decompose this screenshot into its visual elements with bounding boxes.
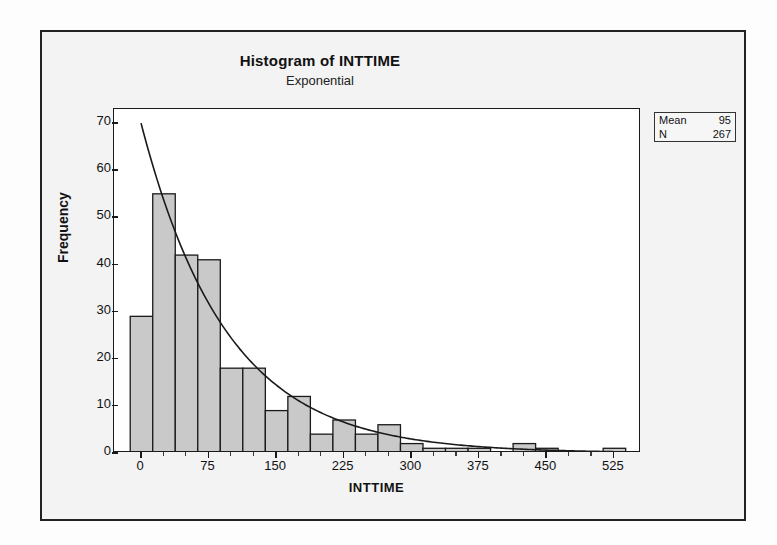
- histogram-svg: [114, 109, 640, 452]
- y-axis-tick-label: 10: [51, 396, 111, 411]
- x-axis-tick-label: 300: [380, 458, 440, 473]
- histogram-bar: [265, 411, 288, 452]
- x-axis-tick-label: 450: [515, 458, 575, 473]
- histogram-bar: [130, 316, 153, 452]
- legend-row-n: N 267: [655, 127, 735, 141]
- x-axis-tick-label: 225: [313, 458, 373, 473]
- y-axis-tick-label: 20: [51, 349, 111, 364]
- x-axis-tick-mark: [478, 452, 480, 458]
- statistics-legend-box: Mean 95 N 267: [654, 112, 736, 142]
- legend-value-n: 267: [713, 128, 731, 140]
- histogram-bar: [378, 425, 401, 452]
- x-axis-tick-mark: [410, 452, 412, 458]
- y-axis-tick-label: 70: [51, 113, 111, 128]
- histogram-bar: [400, 444, 423, 452]
- legend-label-n: N: [659, 128, 667, 140]
- y-axis-tick-mark: [112, 169, 118, 171]
- x-axis-minor-tick-mark: [230, 452, 231, 456]
- y-axis-tick-mark: [112, 358, 118, 360]
- y-axis-tick-label: 60: [51, 160, 111, 175]
- x-axis-minor-tick-mark: [185, 452, 186, 456]
- x-axis-tick-mark: [343, 452, 345, 458]
- y-axis-tick-label: 30: [51, 302, 111, 317]
- x-axis-tick-label: 0: [110, 458, 170, 473]
- x-axis-minor-tick-mark: [365, 452, 366, 456]
- chart-subtitle: Exponential: [0, 73, 640, 88]
- y-axis-tick-label: 50: [51, 207, 111, 222]
- y-axis-tick-label: 40: [51, 255, 111, 270]
- plot-wrapper: Frequency INTTIME 0102030405060700751502…: [113, 108, 640, 452]
- x-axis-minor-tick-mark: [388, 452, 389, 456]
- x-axis-minor-tick-mark: [455, 452, 456, 456]
- x-axis-minor-tick-mark: [298, 452, 299, 456]
- x-axis-tick-label: 525: [583, 458, 643, 473]
- x-axis-minor-tick-mark: [568, 452, 569, 456]
- x-axis-minor-tick-mark: [163, 452, 164, 456]
- histogram-bars: [130, 194, 625, 452]
- x-axis-tick-mark: [613, 452, 615, 458]
- x-axis-tick-mark: [545, 452, 547, 458]
- histogram-bar: [446, 448, 469, 452]
- chart-title: Histogram of INTTIME: [0, 52, 640, 69]
- y-axis-tick-mark: [112, 216, 118, 218]
- y-axis-label: Frequency: [55, 192, 71, 263]
- x-axis-tick-mark: [208, 452, 210, 458]
- chart-window: Histogram of INTTIME Exponential Mean 95…: [0, 0, 777, 545]
- legend-value-mean: 95: [719, 114, 731, 126]
- x-axis-tick-label: 150: [245, 458, 305, 473]
- histogram-bar: [220, 368, 243, 452]
- y-axis-tick-mark: [112, 122, 118, 124]
- x-axis-minor-tick-mark: [590, 452, 591, 456]
- plot-area: [113, 108, 640, 452]
- histogram-bar: [175, 255, 198, 452]
- legend-label-mean: Mean: [659, 114, 687, 126]
- histogram-bar: [310, 434, 333, 452]
- y-axis-tick-mark: [112, 264, 118, 266]
- histogram-bar: [355, 434, 378, 452]
- x-axis-tick-label: 75: [178, 458, 238, 473]
- x-axis-minor-tick-mark: [500, 452, 501, 456]
- histogram-bar: [513, 444, 536, 452]
- x-axis-tick-mark: [275, 452, 277, 458]
- x-axis-minor-tick-mark: [433, 452, 434, 456]
- x-axis-minor-tick-mark: [320, 452, 321, 456]
- x-axis-minor-tick-mark: [253, 452, 254, 456]
- y-axis-tick-mark: [112, 405, 118, 407]
- histogram-bar: [153, 194, 176, 452]
- histogram-bar: [423, 448, 446, 452]
- y-axis-tick-mark: [112, 452, 118, 454]
- x-axis-minor-tick-mark: [523, 452, 524, 456]
- x-axis-tick-mark: [140, 452, 142, 458]
- x-axis-tick-label: 375: [448, 458, 508, 473]
- x-axis-label: INTTIME: [113, 480, 640, 495]
- y-axis-tick-mark: [112, 311, 118, 313]
- histogram-bar: [243, 368, 266, 452]
- y-axis-tick-label: 0: [51, 443, 111, 458]
- legend-row-mean: Mean 95: [655, 113, 735, 127]
